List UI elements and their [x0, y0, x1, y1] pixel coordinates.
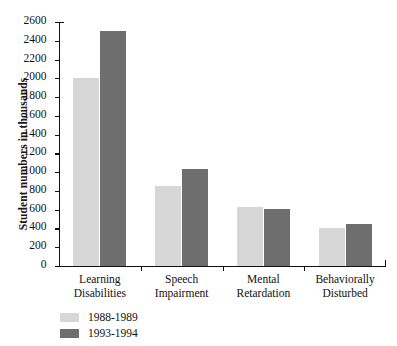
y-axis-tick: 800	[55, 191, 60, 192]
y-axis-tick: 1000	[55, 172, 60, 173]
y-axis-tick: 2600	[55, 22, 60, 23]
category-label-line1: Behaviorally	[315, 273, 374, 285]
category-label-line2: Disturbed	[304, 286, 386, 300]
bar-chart: Student numbers in thousands 02004006008…	[0, 0, 397, 346]
x-axis-right-cap	[385, 260, 386, 267]
y-axis-tick: 1600	[55, 116, 60, 117]
chart-legend: 1988-1989 1993-1994	[60, 310, 138, 342]
y-axis-tick-label: 800	[7, 183, 47, 195]
y-axis-tick-label: 1400	[7, 127, 47, 139]
y-axis-tick: 600	[55, 210, 60, 211]
x-axis-tick	[223, 266, 224, 271]
bar	[182, 169, 208, 266]
legend-item: 1993-1994	[60, 326, 138, 340]
legend-item: 1988-1989	[60, 310, 138, 324]
y-axis-tick-label: 400	[7, 220, 47, 232]
y-axis-line	[59, 22, 60, 266]
x-axis-category-label: MentalRetardation	[223, 272, 305, 300]
y-axis-top-cap	[59, 22, 64, 23]
y-axis-tick-label: 200	[7, 239, 47, 251]
y-axis-tick: 400	[55, 228, 60, 229]
category-label-line1: Speech	[165, 273, 198, 285]
category-label-line2: Disabilities	[59, 286, 141, 300]
y-axis-tick-label: 2200	[7, 52, 47, 64]
y-axis-tick-label: 2600	[7, 14, 47, 26]
y-axis-tick: 0	[55, 266, 60, 267]
y-axis-tick: 2400	[55, 41, 60, 42]
plot-area: 0200400600800100012001400160018002000220…	[59, 22, 386, 266]
x-axis-category-label: BehaviorallyDisturbed	[304, 272, 386, 300]
x-axis-tick	[141, 266, 142, 271]
bar	[319, 228, 345, 266]
y-axis-tick: 1800	[55, 97, 60, 98]
legend-swatch-icon	[60, 329, 79, 338]
x-axis-category-label: SpeechImpairment	[141, 272, 223, 300]
y-axis-tick: 1400	[55, 135, 60, 136]
legend-swatch-icon	[60, 313, 79, 322]
bar	[264, 209, 290, 266]
y-axis-tick: 2200	[55, 60, 60, 61]
y-axis-tick-label: 1600	[7, 108, 47, 120]
x-axis-category-label: LearningDisabilities	[59, 272, 141, 300]
y-axis-tick-label: 0	[7, 258, 47, 270]
legend-item-label: 1993-1994	[88, 327, 138, 339]
y-axis-tick-label: 600	[7, 202, 47, 214]
category-label-line2: Retardation	[223, 286, 305, 300]
category-label-line1: Learning	[79, 273, 121, 285]
bar	[100, 31, 126, 266]
bar	[73, 78, 99, 266]
y-axis-tick-label: 2000	[7, 70, 47, 82]
y-axis-tick: 2000	[55, 78, 60, 79]
y-axis-tick-label: 1200	[7, 145, 47, 157]
y-axis-tick-label: 1000	[7, 164, 47, 176]
bar	[155, 186, 181, 266]
category-label-line1: Mental	[247, 273, 280, 285]
bar	[346, 224, 372, 266]
legend-item-label: 1988-1989	[88, 311, 138, 323]
bar	[237, 207, 263, 266]
category-label-line2: Impairment	[141, 286, 223, 300]
x-axis-tick	[304, 266, 305, 271]
y-axis-tick-label: 2400	[7, 33, 47, 45]
y-axis-tick-label: 1800	[7, 89, 47, 101]
y-axis-tick: 200	[55, 247, 60, 248]
y-axis-tick: 1200	[55, 153, 60, 154]
